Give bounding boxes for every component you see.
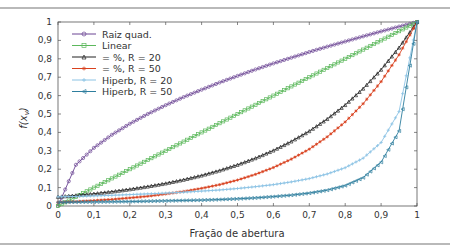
x-tick-label: 0,8 — [338, 210, 353, 220]
y-tick-label: 1 — [46, 17, 52, 27]
legend-item: Linear — [72, 40, 132, 51]
legend-item: = %, R = 50 — [72, 63, 161, 74]
x-tick-label: 0,2 — [123, 210, 137, 220]
legend-label: = %, R = 50 — [102, 63, 161, 74]
y-tick-label: 0,7 — [38, 72, 52, 82]
y-tick-label: 0,9 — [38, 35, 53, 45]
x-tick-label: 0,3 — [159, 210, 173, 220]
y-tick-label: 0,1 — [38, 183, 52, 193]
legend-item: = %, R = 20 — [72, 52, 161, 63]
legend-item: Hiperb, R = 20 — [72, 75, 172, 86]
x-tick-label: 0,7 — [302, 210, 316, 220]
x-tick-label: 0,9 — [374, 210, 389, 220]
x-axis-label: Fração de abertura — [189, 228, 284, 239]
y-tick-label: 0,6 — [38, 91, 53, 101]
legend-item: Hiperb, R = 50 — [72, 86, 172, 97]
y-tick-label: 0,3 — [38, 146, 52, 156]
y-tick-label: 0 — [46, 201, 52, 211]
legend: Raiz quad.Linear= %, R = 20= %, R = 50Hi… — [72, 29, 172, 98]
y-tick-label: 0,5 — [38, 109, 52, 119]
x-tick-label: 0,1 — [87, 210, 101, 220]
legend-label: Hiperb, R = 20 — [102, 75, 172, 86]
y-tick-label: 0,2 — [38, 164, 52, 174]
x-tick-label: 0,6 — [266, 210, 281, 220]
y-tick-label: 0,4 — [38, 127, 53, 137]
y-axis-label: f(xv) — [18, 107, 31, 128]
x-tick-label: 0,4 — [194, 210, 209, 220]
x-tick-label: 0 — [55, 210, 61, 220]
legend-label: Raiz quad. — [102, 29, 152, 40]
legend-label: Linear — [102, 40, 132, 51]
legend-item: Raiz quad. — [72, 29, 152, 40]
x-tick-label: 0,5 — [230, 210, 244, 220]
y-tick-label: 0,8 — [38, 54, 53, 64]
legend-label: Hiperb, R = 50 — [102, 86, 172, 97]
x-tick-label: 1 — [414, 210, 420, 220]
legend-label: = %, R = 20 — [102, 52, 161, 63]
valve-characteristic-chart: 00,10,20,30,40,50,60,70,80,91 00,10,20,3… — [0, 0, 450, 250]
